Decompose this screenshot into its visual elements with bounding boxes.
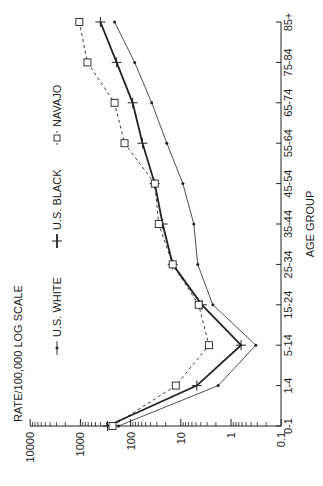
chart-container: 1000010001001010.10-11-45-1415-2425-3435… [0,0,323,486]
square-marker [172,382,179,389]
value-tick-label: 1000 [74,432,86,456]
category-tick-label: 65-74 [282,89,294,117]
category-tick-label: 5-14 [282,334,294,356]
category-tick-label: 25-34 [282,250,294,278]
category-tick-label: 0-1 [282,418,294,434]
square-marker [151,180,158,187]
series-u-s-white [113,21,257,428]
axes: 1000010001001010.10-11-45-1415-2425-3435… [24,13,294,463]
series-line [79,22,209,426]
legend: U.S. WHITEU.S. BLACKNAVAJO [51,84,63,355]
square-marker [121,140,128,147]
category-axis-title: AGE GROUP [304,191,316,258]
dot-marker [211,303,214,306]
category-tick-label: 75-84 [282,48,294,76]
line-chart: 1000010001001010.10-11-45-1415-2425-3435… [0,0,323,486]
category-tick-label: 45-54 [282,170,294,198]
dot-marker [165,142,168,145]
legend-label: NAVAJO [51,84,63,127]
series-navajo [76,19,213,430]
category-tick-label: 15-24 [282,291,294,319]
square-marker [195,301,202,308]
series-line [115,22,256,426]
dot-marker [181,182,184,185]
legend-label: U.S. BLACK [51,169,63,230]
square-marker [169,261,176,268]
value-axis-title: RATE/100,000 LOG SCALE [12,285,24,422]
legend-label: U.S. WHITE [51,277,63,337]
value-tick-label: 1 [225,432,237,438]
square-marker [109,423,116,430]
dot-marker [217,384,220,387]
dot-marker [254,344,257,347]
category-tick-label: 35-44 [282,210,294,238]
dot-marker [150,101,153,104]
legend-square-marker [54,135,60,141]
dot-marker [192,223,195,226]
square-marker [84,59,91,66]
value-tick-label: 10 [175,432,187,444]
series-line [100,22,241,426]
series-group [76,17,258,431]
category-tick-label: 1-4 [282,378,294,394]
legend-dot-marker [56,347,59,350]
dot-marker [196,263,199,266]
dot-marker [117,425,120,428]
value-tick-label: 10000 [24,432,36,463]
dot-marker [133,61,136,64]
square-marker [111,99,118,106]
series-u-s-black [95,17,246,431]
square-marker [76,19,83,26]
square-marker [205,342,212,349]
category-tick-label: 55-64 [282,129,294,157]
category-tick-label: 85+ [282,13,294,32]
square-marker [155,221,162,228]
value-tick-label: 100 [125,432,137,450]
dot-marker [113,21,116,24]
